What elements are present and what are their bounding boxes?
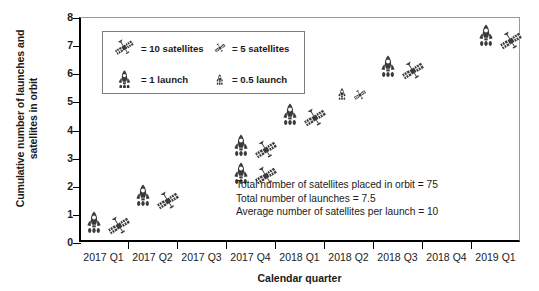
y-axis-tick-label: 5 (49, 95, 73, 107)
rocket-icon (282, 103, 297, 125)
satellite-icon (213, 43, 227, 53)
x-axis-tick (275, 242, 276, 249)
y-axis-tick-label: 1 (49, 208, 73, 220)
legend-entry: = 0.5 launch (213, 64, 287, 94)
chart-annotation: Total number of satellites placed in orb… (236, 178, 524, 219)
y-axis-title: Cumulative number of launches and satell… (14, 9, 39, 229)
rocket-icon (233, 134, 248, 156)
rocket-icon (112, 70, 136, 89)
legend-label: = 5 satellites (232, 43, 289, 54)
x-axis-tick-label: 2018 Q3 (377, 251, 417, 263)
rocket-icon (86, 211, 101, 233)
plot-area: 012345678 = 10 satellites= 5 satellites=… (79, 17, 520, 242)
x-axis-tick (471, 242, 472, 249)
x-axis-tick-label: 2017 Q3 (181, 251, 221, 263)
rocket-icon (478, 24, 493, 46)
y-axis-tick (73, 187, 81, 188)
x-axis-title: Calendar quarter (79, 272, 520, 284)
x-axis-tick (373, 242, 374, 249)
y-axis-tick-label: 3 (49, 152, 73, 164)
x-axis-tick-label: 2018 Q2 (328, 251, 368, 263)
satellite-icon (107, 216, 131, 236)
y-axis-tick (73, 131, 81, 132)
annotation-line: Total number of satellites placed in orb… (236, 178, 524, 192)
pictograph-chart: Cumulative number of launches and satell… (0, 0, 539, 291)
satellite-icon (303, 108, 327, 128)
satellite-icon (112, 39, 136, 56)
x-axis-tick-label: 2017 Q1 (83, 251, 123, 263)
y-axis-tick-label: 2 (49, 180, 73, 192)
rocket-icon (135, 184, 150, 206)
legend-label: = 0.5 launch (232, 74, 287, 85)
y-axis-tick (73, 102, 81, 103)
rocket-icon (213, 74, 227, 85)
legend-entry: = 5 satellites (213, 33, 289, 63)
rocket-icon (380, 55, 395, 77)
satellite-icon (401, 61, 425, 81)
legend-label: = 10 satellites (141, 43, 204, 54)
x-axis-tick (177, 242, 178, 249)
rocket-icon (338, 88, 346, 100)
y-axis-tick-label: 7 (49, 39, 73, 51)
satellite-icon (254, 140, 278, 160)
y-axis-tick-label: 0 (49, 236, 73, 248)
legend-entry: = 1 launch (112, 64, 188, 94)
y-axis-tick-label: 4 (49, 124, 73, 136)
y-axis-tick-label: 8 (49, 11, 73, 23)
satellite-icon (353, 90, 366, 101)
satellite-icon (156, 191, 180, 211)
x-axis-tick (422, 242, 423, 249)
satellite-icon (499, 31, 523, 51)
x-axis-tick-label: 2019 Q1 (475, 251, 515, 263)
x-axis-tick-label: 2018 Q4 (426, 251, 466, 263)
y-axis-tick (73, 18, 81, 19)
y-axis-tick (73, 159, 81, 160)
y-axis-tick (73, 46, 81, 47)
x-axis-tick-label: 2017 Q2 (132, 251, 172, 263)
y-axis-tick (73, 215, 81, 216)
x-axis-tick-label: 2018 Q1 (279, 251, 319, 263)
chart-legend: = 10 satellites= 5 satellites= 1 launch=… (102, 31, 305, 94)
legend-label: = 1 launch (141, 74, 188, 85)
annotation-line: Total number of launches = 7.5 (236, 192, 524, 206)
y-axis-tick (73, 74, 81, 75)
x-axis-tick (324, 242, 325, 249)
x-axis-tick (226, 242, 227, 249)
x-axis: Calendar quarter 2017 Q12017 Q22017 Q320… (79, 242, 520, 291)
y-axis-tick-label: 6 (49, 67, 73, 79)
annotation-line: Average number of satellites per launch … (236, 205, 524, 219)
x-axis-tick (128, 242, 129, 249)
x-axis-tick-label: 2017 Q4 (230, 251, 270, 263)
legend-entry: = 10 satellites (112, 33, 204, 63)
